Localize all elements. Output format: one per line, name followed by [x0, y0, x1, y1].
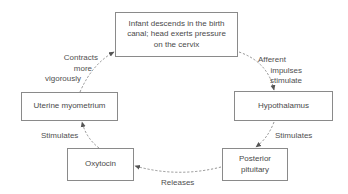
node-uterus-label: Uterine myometrium [33, 101, 105, 112]
edge-label-afferent: Afferent impulses stimulate [258, 55, 302, 87]
node-stimulus-line1: Infant descends in the birth [127, 19, 226, 30]
node-posterior-pituitary: Posterior pituitary [222, 148, 288, 181]
edge-afferent-line2: impulses [258, 66, 302, 77]
node-oxytocin: Oxytocin [67, 148, 134, 181]
node-hypothalamus: Hypothalamus [234, 91, 333, 121]
node-pituitary-line2: pituitary [239, 165, 271, 176]
edge-label-contracts: Contracts more vigorously [45, 53, 98, 85]
positive-feedback-diagram: Infant descends in the birth canal; head… [0, 0, 348, 194]
edge-contracts-line1: Contracts [45, 53, 98, 64]
edge-oxy-to-uterus-label: Stimulates [41, 131, 78, 142]
node-hypothalamus-label: Hypothalamus [258, 101, 309, 112]
node-uterine-myometrium: Uterine myometrium [21, 92, 118, 121]
arrow-pituitary-to-oxytocin [135, 166, 221, 172]
node-stimulus-line3: on the cervix [127, 40, 226, 51]
edge-contracts-line2: more [45, 64, 98, 75]
node-pituitary-line1: Posterior [239, 154, 271, 165]
arrow-oxytocin-to-uterus [82, 122, 99, 148]
node-stimulus: Infant descends in the birth canal; head… [115, 12, 238, 57]
edge-contracts-line3: vigorously [45, 74, 98, 85]
node-oxytocin-label: Oxytocin [85, 159, 116, 170]
arrow-hypothalamus-to-pituitary [256, 122, 274, 147]
edge-label-releases: Releases [161, 178, 194, 189]
edge-label-hypo-to-pituitary: Stimulates [275, 131, 312, 142]
edge-afferent-line3: stimulate [258, 76, 302, 87]
node-stimulus-line2: canal; head exerts pressure [127, 29, 226, 40]
edge-label-oxy-to-uterus: Stimulates [41, 131, 78, 142]
edge-releases-label: Releases [161, 178, 194, 189]
edge-afferent-line1: Afferent [258, 55, 302, 66]
edge-hypo-to-pit-label: Stimulates [275, 131, 312, 142]
